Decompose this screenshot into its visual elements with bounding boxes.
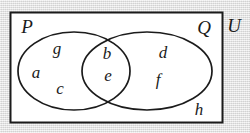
element-e: e	[104, 66, 112, 85]
element-g: g	[53, 39, 62, 58]
venn-diagram-canvas: P Q U g a c b e d f h	[0, 0, 250, 133]
element-a: a	[32, 63, 41, 82]
universal-set-label: U	[227, 15, 242, 36]
element-h: h	[195, 100, 204, 119]
element-c: c	[56, 79, 64, 98]
set-p-label: P	[20, 16, 33, 37]
set-q-label: Q	[197, 17, 211, 38]
venn-diagram-figure: P Q U g a c b e d f h	[0, 0, 250, 133]
element-b: b	[103, 44, 112, 63]
element-d: d	[159, 43, 168, 62]
